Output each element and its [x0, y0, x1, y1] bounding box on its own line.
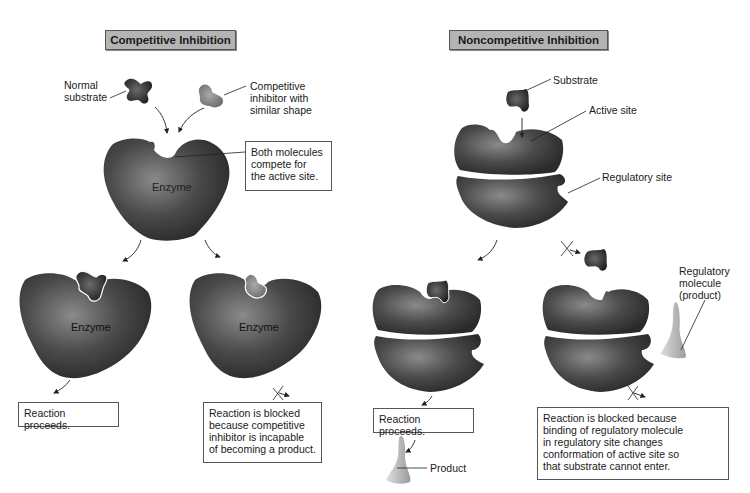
active-site-label: Active site [589, 104, 637, 116]
normal-substrate-label: Normal substrate [64, 79, 107, 103]
product-shape [386, 436, 410, 484]
substrate-shape [506, 89, 529, 112]
competitive-inhibitor-label: Competitive inhibitor with similar shape [250, 80, 312, 116]
reaction-proceeds-box-noncompetitive: Reaction proceeds. [373, 408, 474, 433]
regulatory-molecule-label: Regulatory molecule (product) [679, 265, 730, 301]
reaction-blocked-box-competitive: Reaction is blocked because competitive … [203, 402, 322, 463]
enzyme-label-right: Enzyme [239, 321, 279, 333]
enzyme-label-left: Enzyme [71, 321, 111, 333]
substrate-label: Substrate [553, 74, 598, 86]
competitive-inhibitor-shape [199, 84, 223, 107]
competitive-inhibition-title: Competitive Inhibition [105, 30, 236, 50]
noncompetitive-inhibition-title: Noncompetitive Inhibition [449, 30, 608, 50]
reaction-blocked-box-noncompetitive: Reaction is blocked because binding of r… [537, 407, 729, 480]
normal-substrate-shape [124, 79, 152, 104]
both-compete-box: Both molecules compete for the active si… [245, 141, 332, 191]
reaction-proceeds-box-competitive: Reaction proceeds. [18, 402, 119, 427]
regulatory-molecule-shape [660, 302, 686, 359]
regulatory-site-label: Regulatory site [602, 171, 672, 183]
enzyme-label-top: Enzyme [152, 181, 192, 193]
product-label: Product [430, 462, 466, 474]
